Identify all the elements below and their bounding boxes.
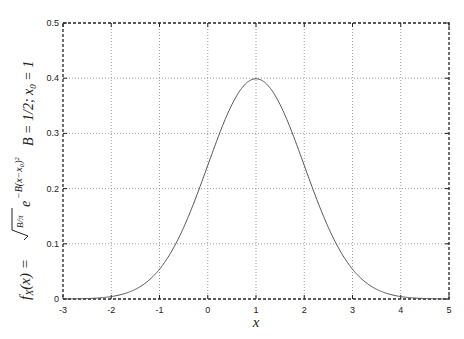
x-tick-label: 3 (350, 305, 355, 315)
svg-text:B = 1/2; x0 = 1: B = 1/2; x0 = 1 (21, 61, 38, 146)
axis-ticks: -3-2-101234500.10.20.30.40.5 (46, 18, 451, 315)
parameter-annotation: B = 1/2; x0 = 1 (21, 61, 38, 146)
chart: -3-2-101234500.10.20.30.40.5 x fX(x) = B… (0, 0, 464, 339)
svg-text:e: e (18, 201, 33, 207)
y-tick-label: 0.2 (46, 184, 59, 194)
y-tick-label: 0.1 (46, 239, 59, 249)
y-tick-label: 0.4 (46, 73, 59, 83)
x-tick-label: -2 (107, 305, 115, 315)
x-tick-label: 5 (446, 305, 451, 315)
svg-text:−B(x−x₀)²: −B(x−x₀)² (13, 156, 25, 199)
svg-text:fX(x) =: fX(x) = (17, 259, 35, 300)
x-tick-label: 2 (302, 305, 307, 315)
y-axis-label: fX(x) = B/π e −B(x−x₀)² (12, 156, 35, 300)
x-tick-label: -3 (59, 305, 67, 315)
x-tick-label: 0 (205, 305, 210, 315)
x-tick-label: 4 (398, 305, 403, 315)
svg-text:B/π: B/π (15, 215, 25, 228)
grid-lines (63, 23, 449, 299)
x-axis-label: x (252, 314, 260, 330)
y-tick-label: 0 (54, 294, 59, 304)
y-tick-label: 0.3 (46, 128, 59, 138)
y-tick-label: 0.5 (46, 18, 59, 28)
x-tick-label: -1 (155, 305, 163, 315)
